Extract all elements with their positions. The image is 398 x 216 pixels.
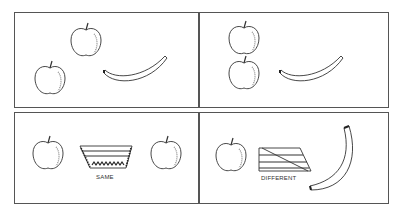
- apple-icon: [71, 23, 101, 56]
- banana-icon: [280, 56, 343, 81]
- apple-icon: [229, 21, 259, 54]
- same-label: SAME: [96, 174, 114, 180]
- apple-icon: [229, 56, 259, 89]
- banana-icon: [104, 56, 167, 81]
- different-symbol-icon: [259, 148, 311, 171]
- apple-icon: [35, 61, 65, 94]
- banana-icon: [310, 126, 353, 190]
- apple-icon: [216, 138, 246, 171]
- same-symbol-icon: [80, 146, 132, 168]
- figure-drawings: [0, 0, 398, 216]
- apple-icon: [33, 136, 63, 169]
- different-label: DIFFERENT: [261, 175, 296, 181]
- apple-icon: [151, 136, 181, 169]
